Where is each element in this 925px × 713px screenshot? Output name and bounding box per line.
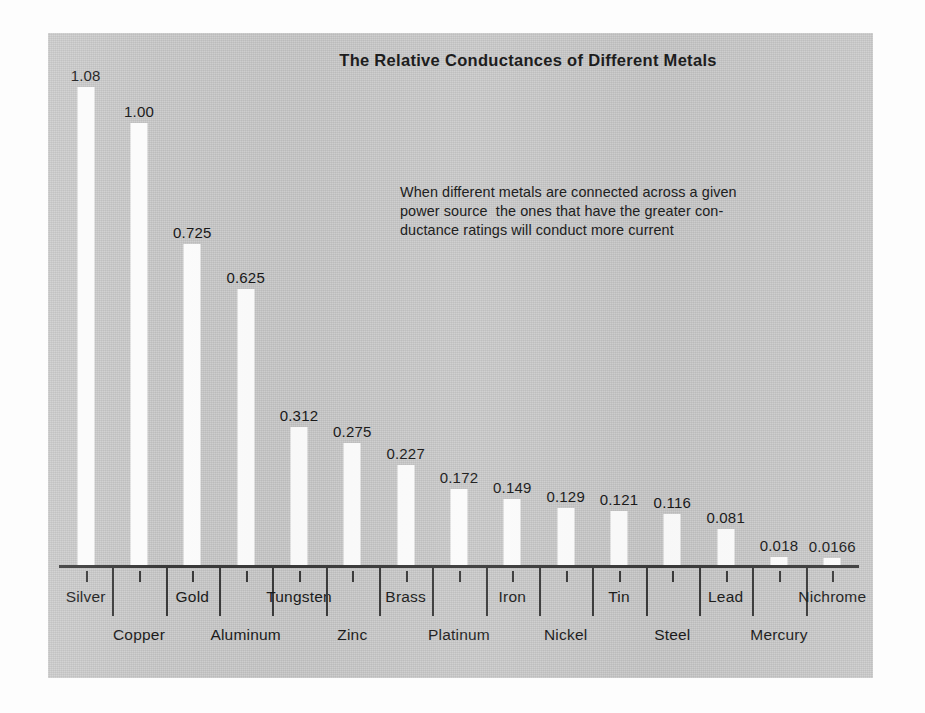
category-label-tin: Tin <box>608 588 630 606</box>
bar-gold: 0.725 <box>166 43 219 565</box>
x-axis-tick <box>832 571 834 582</box>
category-divider <box>219 568 221 616</box>
category-label-platinum: Platinum <box>428 626 490 644</box>
bar-rect <box>770 557 787 565</box>
category-label-nickel: Nickel <box>544 626 587 644</box>
bar-zinc: 0.275 <box>326 43 379 565</box>
category-divider <box>432 568 434 616</box>
x-axis-tick <box>459 571 461 582</box>
category-label-mercury: Mercury <box>750 626 807 644</box>
figure-page: The Relative Conductances of Different M… <box>0 0 925 713</box>
bar-silver: 1.08 <box>59 43 112 565</box>
category-label-iron: Iron <box>499 588 527 606</box>
bar-rect <box>504 499 521 565</box>
bar-rect <box>77 87 94 565</box>
x-axis-tick <box>512 571 514 582</box>
annotation-line-1: When different metals are connected acro… <box>400 183 730 202</box>
bar-mercury: 0.018 <box>752 43 805 565</box>
bar-value-label: 0.149 <box>493 479 532 496</box>
x-axis-tick <box>406 571 408 582</box>
x-axis-tick <box>86 571 88 582</box>
bar-value-label: 0.116 <box>654 494 691 511</box>
category-label-zinc: Zinc <box>337 626 367 644</box>
bar-iron: 0.149 <box>486 43 539 565</box>
category-label-aluminum: Aluminum <box>210 626 281 644</box>
category-divider <box>646 568 648 616</box>
bar-value-label: 0.725 <box>173 224 212 241</box>
category-divider <box>112 568 114 616</box>
bar-nichrome: 0.0166 <box>806 43 859 565</box>
bar-rect <box>184 244 201 565</box>
bar-rect <box>557 508 574 565</box>
x-axis-tick <box>192 571 194 582</box>
category-divider <box>752 568 754 616</box>
bar-value-label: 0.081 <box>706 509 745 526</box>
category-label-lead: Lead <box>708 588 743 606</box>
category-divider <box>486 568 488 616</box>
bar-copper: 1.00 <box>112 43 165 565</box>
bar-series: 1.081.000.7250.6250.3120.2750.2270.1720.… <box>59 43 859 565</box>
bar-value-label: 0.275 <box>333 423 372 440</box>
x-axis-tick <box>619 571 621 582</box>
bar-value-label: 1.08 <box>71 67 101 84</box>
x-axis-tick <box>299 571 301 582</box>
category-label-steel: Steel <box>654 626 690 644</box>
x-axis-line <box>59 565 859 568</box>
bar-value-label: 0.018 <box>760 537 799 554</box>
bar-value-label: 1.00 <box>124 103 154 120</box>
bar-rect <box>717 529 734 565</box>
bar-tungsten: 0.312 <box>272 43 325 565</box>
x-axis-tick <box>779 571 781 582</box>
bar-rect <box>290 427 307 565</box>
category-divider <box>592 568 594 616</box>
bar-rect <box>130 123 147 565</box>
bar-rect <box>450 489 467 565</box>
bar-rect <box>610 511 627 565</box>
bar-value-label: 0.227 <box>386 445 425 462</box>
annotation-line-3: ductance ratings will conduct more curre… <box>400 221 730 240</box>
x-axis-tick <box>566 571 568 582</box>
category-label-silver: Silver <box>66 588 106 606</box>
bar-aluminum: 0.625 <box>219 43 272 565</box>
page-title: The Relative Conductances of Different M… <box>298 51 758 70</box>
category-label-nichrome: Nichrome <box>798 588 866 606</box>
category-divider <box>326 568 328 616</box>
x-axis-tick <box>352 571 354 582</box>
bar-platinum: 0.172 <box>432 43 485 565</box>
x-axis-tick <box>726 571 728 582</box>
category-label-tungsten: Tungsten <box>266 588 332 606</box>
chart-panel: The Relative Conductances of Different M… <box>48 33 873 678</box>
plot-area: 1.081.000.7250.6250.3120.2750.2270.1720.… <box>48 33 873 678</box>
category-divider <box>379 568 381 616</box>
bar-value-label: 0.172 <box>440 469 479 486</box>
category-divider <box>166 568 168 616</box>
category-label-copper: Copper <box>113 626 165 644</box>
bar-lead: 0.081 <box>699 43 752 565</box>
bar-value-label: 0.625 <box>226 269 265 286</box>
chart-annotation: When different metals are connected acro… <box>400 183 730 240</box>
bar-rect <box>397 465 414 565</box>
x-axis-tick <box>672 571 674 582</box>
bar-value-label: 0.121 <box>600 491 639 508</box>
x-axis-tick <box>139 571 141 582</box>
bar-value-label: 0.0166 <box>809 538 856 555</box>
bar-nickel: 0.129 <box>539 43 592 565</box>
category-divider <box>539 568 541 616</box>
bar-steel: 0.116 <box>646 43 699 565</box>
category-divider <box>699 568 701 616</box>
annotation-line-2: power source the ones that have the grea… <box>400 202 730 221</box>
bar-rect <box>664 514 681 565</box>
bar-brass: 0.227 <box>379 43 432 565</box>
bar-rect <box>824 558 841 565</box>
bar-value-label: 0.129 <box>546 488 585 505</box>
x-axis-tick <box>246 571 248 582</box>
category-label-brass: Brass <box>385 588 426 606</box>
bar-tin: 0.121 <box>592 43 645 565</box>
bar-rect <box>344 443 361 565</box>
category-label-gold: Gold <box>176 588 210 606</box>
bar-rect <box>237 289 254 565</box>
bar-value-label: 0.312 <box>280 407 319 424</box>
